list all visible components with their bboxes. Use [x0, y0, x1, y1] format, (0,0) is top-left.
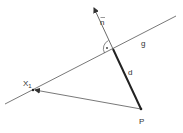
normal-vector-arrow	[94, 8, 113, 49]
vector-p-to-x1	[35, 90, 141, 109]
label-normal-n: n	[100, 18, 104, 27]
label-line-g: g	[141, 39, 145, 48]
line-g	[5, 16, 176, 104]
label-x-subscript: 1	[28, 83, 32, 89]
diagram-canvas: n g d X1 P	[0, 0, 183, 133]
right-angle-dot	[106, 47, 108, 49]
label-point-p: P	[139, 117, 144, 126]
point-p-dot	[140, 108, 143, 111]
point-x1-dot	[32, 89, 34, 91]
label-distance-d: d	[128, 68, 132, 77]
distance-segment-d	[113, 49, 141, 109]
label-point-x1: X1	[23, 79, 32, 89]
